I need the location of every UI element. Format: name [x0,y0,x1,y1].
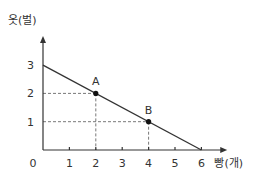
y-tick-label: 3 [27,59,34,72]
x-axis-arrow-icon [220,147,227,153]
point-label: B [145,104,153,117]
x-tick-label: 6 [198,157,205,170]
x-tick-label: 1 [66,157,73,170]
point-label: A [92,75,100,88]
series [43,65,201,150]
y-ticks: 123 [27,59,34,129]
x-tick-label: 4 [145,157,152,170]
data-point [146,119,151,124]
x-tick-label: 5 [172,157,179,170]
y-tick-label: 2 [27,87,34,100]
chart: 123456 123 AB 빵(개) 옷(벌) 0 [0,0,259,180]
y-axis-arrow-icon [40,36,46,43]
origin-label: 0 [30,157,37,170]
x-axis-label: 빵(개) [214,157,243,170]
series-line [43,65,201,150]
x-tick-label: 3 [119,157,126,170]
guide-lines [43,93,149,150]
y-axis-label: 옷(벌) [8,14,37,27]
data-point [93,91,98,96]
x-tick-label: 2 [92,157,99,170]
points: AB [92,75,152,124]
y-tick-label: 1 [27,116,34,129]
